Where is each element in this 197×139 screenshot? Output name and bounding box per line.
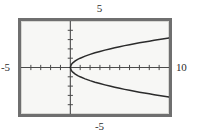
x-axis-max-label: 10 (176, 62, 187, 73)
y-axis-max-label: 5 (0, 3, 197, 14)
curve-lower-branch (70, 68, 169, 97)
plot-canvas (21, 21, 169, 114)
axes-group (21, 21, 169, 114)
x-axis-min-label: -5 (1, 62, 10, 73)
graph-figure: 5 -5 10 -5 (0, 0, 197, 139)
curve-upper-branch (70, 38, 169, 67)
plot-frame (18, 18, 172, 117)
y-axis-min-label: -5 (0, 121, 197, 132)
